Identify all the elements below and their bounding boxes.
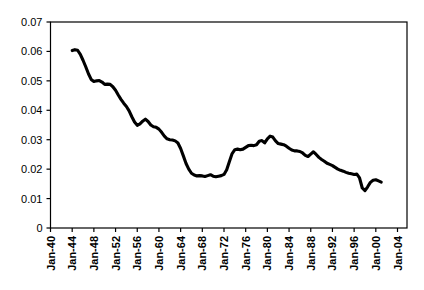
y-tick-label: 0.04 bbox=[21, 104, 42, 116]
x-tick-label: Jan-88 bbox=[305, 236, 317, 271]
x-tick-label: Jan-76 bbox=[240, 236, 252, 271]
x-axis-labels: Jan-40Jan-44Jan-48Jan-52Jan-56Jan-60Jan-… bbox=[45, 235, 404, 271]
x-tick-label: Jan-80 bbox=[261, 236, 273, 271]
y-tick-label: 0.06 bbox=[21, 45, 42, 57]
x-tick-label: Jan-60 bbox=[153, 236, 165, 271]
x-tick-label: Jan-04 bbox=[392, 235, 404, 271]
y-tick-label: 0.07 bbox=[21, 16, 42, 28]
x-tick-label: Jan-40 bbox=[45, 236, 57, 271]
line-chart: 00.010.020.030.040.050.060.07 Jan-40Jan-… bbox=[0, 0, 424, 290]
x-tick-label: Jan-92 bbox=[326, 236, 338, 271]
chart-container: 00.010.020.030.040.050.060.07 Jan-40Jan-… bbox=[0, 0, 424, 290]
x-tick-label: Jan-96 bbox=[348, 236, 360, 271]
data-series-group bbox=[72, 50, 381, 191]
plot-area-border bbox=[51, 22, 408, 228]
y-tick-label: 0.02 bbox=[21, 163, 42, 175]
x-tick-label: Jan-00 bbox=[370, 236, 382, 271]
x-tick-label: Jan-64 bbox=[175, 235, 187, 271]
x-tick-label: Jan-72 bbox=[218, 236, 230, 271]
y-axis-labels: 00.010.020.030.040.050.060.07 bbox=[21, 16, 42, 234]
x-axis-ticks bbox=[51, 228, 398, 232]
x-tick-label: Jan-44 bbox=[66, 235, 78, 271]
y-tick-label: 0.05 bbox=[21, 75, 42, 87]
x-tick-label: Jan-48 bbox=[88, 236, 100, 271]
x-tick-label: Jan-68 bbox=[196, 236, 208, 271]
x-tick-label: Jan-52 bbox=[110, 236, 122, 271]
y-tick-label: 0.03 bbox=[21, 134, 42, 146]
data-line-series-1 bbox=[72, 50, 381, 191]
x-tick-label: Jan-84 bbox=[283, 235, 295, 271]
y-tick-label: 0 bbox=[36, 222, 42, 234]
y-tick-label: 0.01 bbox=[21, 193, 42, 205]
plot-frame-group bbox=[51, 22, 408, 228]
x-tick-label: Jan-56 bbox=[131, 236, 143, 271]
